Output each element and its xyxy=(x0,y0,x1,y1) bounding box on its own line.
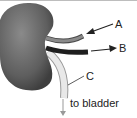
arrow-a-head xyxy=(86,28,95,34)
leader-c xyxy=(68,76,84,85)
label-to-bladder: to bladder xyxy=(70,98,119,109)
arrow-a-line xyxy=(91,24,113,32)
kidney-body xyxy=(0,3,54,91)
arrow-bladder-head xyxy=(60,111,66,116)
label-b: B xyxy=(119,43,126,54)
arrow-b-line xyxy=(91,49,111,51)
label-a: A xyxy=(115,19,122,30)
vessel-b xyxy=(46,48,88,52)
label-c: C xyxy=(86,71,94,82)
arrow-b-head xyxy=(109,45,117,52)
